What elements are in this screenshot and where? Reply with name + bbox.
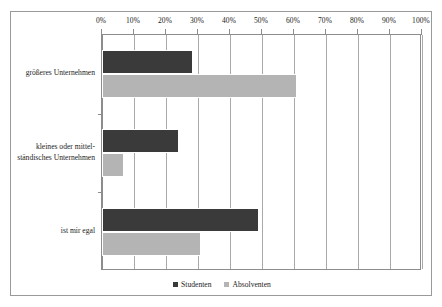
bar-studenten-1	[102, 129, 179, 153]
bar-absolventen-0	[102, 74, 297, 98]
category-label-line: ständisches Unternehmen	[11, 152, 95, 163]
x-tick-label: 30%	[190, 16, 204, 25]
category-tick-mark	[98, 114, 102, 115]
x-tick-label: 80%	[350, 16, 364, 25]
legend-label: Absolventen	[232, 280, 270, 289]
chart-legend: StudentenAbsolventen	[11, 280, 433, 289]
legend-swatch-icon	[173, 282, 178, 287]
x-tick-label: 40%	[222, 16, 236, 25]
x-tick-label: 50%	[254, 16, 268, 25]
x-tick-label: 10%	[126, 16, 140, 25]
category-label-1: kleines oder mittel-ständisches Unterneh…	[11, 142, 95, 163]
bar-studenten-2	[102, 208, 259, 232]
legend-entry-studenten[interactable]: Studenten	[173, 280, 211, 289]
chart-figure: 0%10%20%30%40%50%60%70%80%90%100% größer…	[10, 11, 432, 296]
category-tick-mark	[98, 192, 102, 193]
bar-absolventen-2	[102, 232, 201, 256]
legend-entry-absolventen[interactable]: Absolventen	[224, 280, 270, 289]
x-tick-label: 0%	[96, 16, 106, 25]
bars-layer	[102, 35, 420, 269]
x-tick-label: 100%	[412, 16, 430, 25]
legend-label: Studenten	[181, 280, 211, 289]
x-tick-label: 90%	[382, 16, 396, 25]
bar-studenten-0	[102, 50, 193, 74]
category-label-line: ist mir egal	[11, 225, 95, 236]
x-tick-label: 20%	[158, 16, 172, 25]
x-tick-label: 70%	[318, 16, 332, 25]
bar-absolventen-1	[102, 153, 124, 177]
legend-swatch-icon	[224, 282, 229, 287]
plot-area	[101, 34, 421, 270]
category-label-line: kleines oder mittel-	[11, 142, 95, 153]
category-label-line: größeres Unternehmen	[11, 68, 95, 79]
category-axis-labels: größeres Unternehmenkleines oder mittel-…	[11, 34, 98, 270]
gridline	[422, 35, 423, 269]
x-tick-label: 60%	[286, 16, 300, 25]
category-label-2: ist mir egal	[11, 225, 95, 236]
category-label-0: größeres Unternehmen	[11, 68, 95, 79]
